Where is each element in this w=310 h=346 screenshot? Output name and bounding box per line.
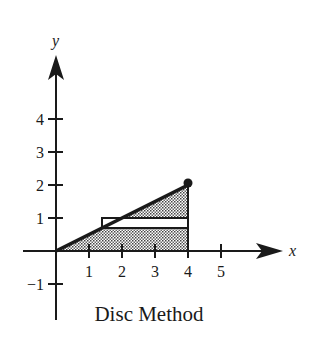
x-tick-label-2: 2	[118, 263, 126, 280]
endpoint-dot	[184, 179, 193, 188]
figure-caption: Disc Method	[94, 302, 204, 326]
y-tick-label-minus-1: −1	[27, 276, 44, 293]
y-tick-label-2: 2	[36, 177, 44, 194]
x-tick-label-4: 4	[184, 263, 192, 280]
x-tick-label-1: 1	[85, 263, 93, 280]
x-tick-label-3: 3	[151, 263, 159, 280]
disc-method-figure: 1 2 3 4 5 4 3 2 1 −1 x y Disc Method	[0, 0, 310, 346]
y-axis-label: y	[50, 32, 60, 50]
y-tick-label-4: 4	[36, 111, 44, 128]
x-tick-label-5: 5	[217, 263, 225, 280]
y-tick-label-1: 1	[36, 210, 44, 227]
plot-svg: 1 2 3 4 5 4 3 2 1 −1 x y Disc Method	[0, 0, 310, 346]
x-axis-label: x	[288, 242, 296, 259]
y-tick-label-3: 3	[36, 144, 44, 161]
